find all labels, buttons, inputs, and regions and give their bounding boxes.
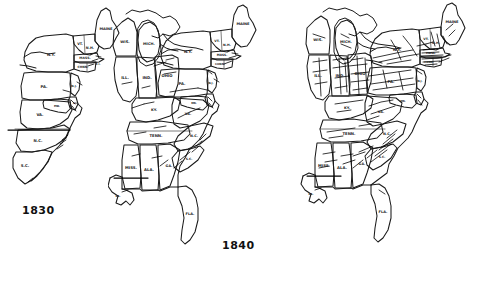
svg-text:KY.: KY.: [151, 108, 157, 112]
svg-text:N.Y.: N.Y.: [47, 52, 56, 57]
svg-text:PA.: PA.: [41, 84, 48, 89]
svg-text:VA.: VA.: [36, 112, 44, 117]
svg-text:MASS.: MASS.: [426, 51, 436, 55]
svg-text:IND.: IND.: [142, 75, 152, 80]
svg-text:ILL.: ILL.: [121, 75, 129, 80]
svg-text:OHIO: OHIO: [354, 71, 366, 76]
svg-text:GA.: GA.: [359, 162, 366, 166]
svg-text:MISS.: MISS.: [125, 165, 137, 170]
svg-text:GA.: GA.: [166, 164, 173, 168]
svg-text:PA.: PA.: [179, 81, 186, 86]
svg-text:ILL.: ILL.: [314, 73, 322, 78]
svg-text:MD.: MD.: [54, 104, 60, 108]
svg-text:CONN.: CONN.: [78, 65, 89, 69]
svg-text:N.C.: N.C.: [383, 132, 391, 136]
svg-text:VA.: VA.: [185, 112, 191, 116]
svg-text:ALA.: ALA.: [144, 167, 154, 172]
svg-text:N.C.: N.C.: [190, 134, 198, 138]
svg-text:N.C.: N.C.: [34, 138, 43, 143]
svg-text:VT.: VT.: [214, 39, 219, 43]
svg-text:TENN.: TENN.: [150, 133, 164, 138]
svg-text:WIS.: WIS.: [120, 40, 129, 44]
svg-text:MICH.: MICH.: [340, 40, 352, 44]
svg-text:S.C.: S.C.: [186, 157, 193, 161]
svg-text:N.H.: N.H.: [223, 43, 231, 47]
svg-text:MD.: MD.: [191, 102, 197, 105]
svg-text:MD.: MD.: [400, 100, 406, 103]
svg-text:MASS.: MASS.: [217, 53, 228, 57]
svg-text:PA.: PA.: [388, 79, 395, 84]
svg-text:TENN.: TENN.: [343, 131, 357, 136]
svg-text:LA.: LA.: [115, 194, 120, 198]
svg-text:N.Y.: N.Y.: [393, 47, 402, 52]
svg-text:KY.: KY.: [344, 106, 350, 110]
railroad-growth-figure: MAINE VT. N.H. MASS. CONN. R.I. N.Y. PA.…: [0, 0, 497, 281]
map-1850-drawing: MAINE VT. N.H. MASS. CONN. N.Y. PA. N.J.…: [283, 0, 497, 281]
svg-text:ALA.: ALA.: [337, 165, 347, 170]
map-1840-drawing: MAINE VT. N.H. MASS. CONN. N.Y. PA. N.J.…: [108, 0, 288, 281]
svg-text:VT.: VT.: [423, 37, 428, 41]
map-panel-1840: MAINE VT. N.H. MASS. CONN. N.Y. PA. N.J.…: [108, 0, 288, 281]
svg-text:N.H.: N.H.: [86, 46, 94, 50]
svg-text:WIS.: WIS.: [313, 38, 322, 42]
svg-text:VT.: VT.: [77, 42, 83, 46]
svg-text:N.J.: N.J.: [417, 80, 422, 83]
svg-text:MICH.: MICH.: [143, 42, 155, 46]
svg-text:DEL.: DEL.: [73, 102, 79, 105]
svg-text:OHIO: OHIO: [161, 73, 173, 78]
svg-text:MASS.: MASS.: [79, 56, 90, 60]
svg-text:N.J.: N.J.: [71, 84, 77, 88]
svg-text:VA.: VA.: [378, 110, 384, 114]
svg-text:MAINE: MAINE: [445, 20, 459, 24]
svg-text:CONN.: CONN.: [215, 62, 225, 66]
svg-text:MISS.: MISS.: [318, 163, 330, 168]
svg-text:S.C.: S.C.: [21, 163, 30, 168]
map-panel-1850: MAINE VT. N.H. MASS. CONN. N.Y. PA. N.J.…: [283, 0, 497, 281]
svg-text:N.Y.: N.Y.: [184, 49, 193, 54]
svg-text:N.H.: N.H.: [432, 41, 440, 45]
svg-text:LA.: LA.: [308, 192, 313, 196]
year-label-1840: 1840: [222, 239, 255, 252]
svg-text:FLA.: FLA.: [379, 210, 388, 214]
year-label-1830: 1830: [22, 204, 55, 217]
svg-text:MAINE: MAINE: [236, 22, 250, 26]
svg-text:IND.: IND.: [335, 73, 345, 78]
svg-text:N.J.: N.J.: [208, 82, 213, 85]
svg-text:CONN.: CONN.: [424, 61, 433, 64]
svg-text:FLA.: FLA.: [186, 212, 195, 216]
svg-text:R.I.: R.I.: [96, 63, 101, 66]
svg-text:S.C.: S.C.: [379, 155, 386, 159]
